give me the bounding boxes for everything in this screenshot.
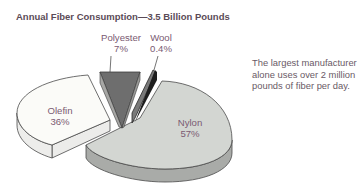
label-olefin-name: Olefin xyxy=(38,105,82,116)
label-polyester-name: Polyester xyxy=(96,32,146,43)
label-polyester-value: 7% xyxy=(96,43,146,54)
label-nylon: Nylon 57% xyxy=(168,117,212,139)
label-wool: Wool 0.4% xyxy=(146,32,176,54)
label-polyester: Polyester 7% xyxy=(96,32,146,54)
leader-line-wool xyxy=(154,56,158,70)
leader-line-polyester xyxy=(110,56,111,72)
note-line-2: alone uses over 2 million xyxy=(252,69,352,81)
label-wool-name: Wool xyxy=(146,32,176,43)
label-wool-value: 0.4% xyxy=(146,43,176,54)
note-line-1: The largest manufacturer xyxy=(252,57,352,69)
label-olefin-value: 36% xyxy=(38,116,82,127)
label-nylon-name: Nylon xyxy=(168,117,212,128)
label-nylon-value: 57% xyxy=(168,128,212,139)
label-olefin: Olefin 36% xyxy=(38,105,82,127)
annotation-note: The largest manufacturer alone uses over… xyxy=(252,57,352,92)
note-line-3: pounds of fiber per day. xyxy=(252,80,352,92)
